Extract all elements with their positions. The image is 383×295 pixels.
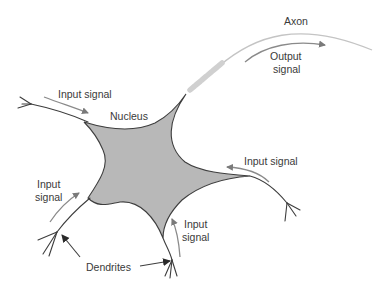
input-signal-label-right: Input signal [244,155,298,167]
soma [84,94,250,238]
input-signal-label-bottom-1: Input [184,218,207,230]
output-signal-label-1: Output [270,50,302,62]
input-signal-label-left-1: Input [37,178,60,190]
neuron-diagram: Axon Output signal Nucleus Input signal … [0,0,383,295]
dendrite-bottom [163,238,177,278]
dendrites-label: Dendrites [86,261,131,273]
input-signal-label-top-left: Input signal [58,88,112,100]
input-signal-arrow-bottom [172,219,180,257]
myelin-sheath [190,63,222,90]
dendrites-pointer-left [62,235,80,257]
dendrite-right [250,176,300,221]
dendrites-pointer-right [140,261,170,266]
input-signal-label-left-2: signal [35,191,62,203]
dendrite-lower-left [38,198,90,256]
nucleus-label: Nucleus [110,110,148,122]
output-signal-label-2: signal [273,63,300,75]
input-signal-label-bottom-2: signal [182,231,209,243]
axon-label: Axon [284,15,308,27]
